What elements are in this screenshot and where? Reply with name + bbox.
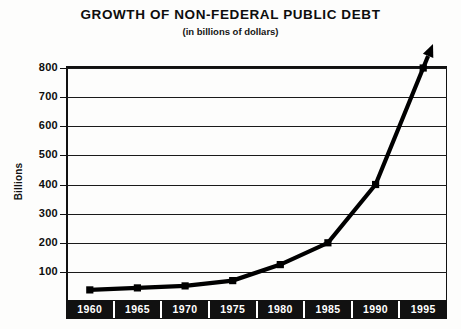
y-tick-label: 400 bbox=[18, 178, 58, 190]
x-axis-separator bbox=[398, 301, 400, 318]
y-tick-mark bbox=[60, 68, 67, 69]
x-axis-separator bbox=[256, 301, 258, 318]
x-tick-label: 1960 bbox=[67, 303, 113, 315]
y-tick-mark bbox=[60, 243, 67, 244]
y-tick-mark bbox=[60, 214, 67, 215]
x-axis-separator bbox=[160, 301, 162, 318]
y-tick-label: 800 bbox=[18, 61, 58, 73]
x-axis-separator bbox=[208, 301, 210, 318]
y-tick-label: 500 bbox=[18, 148, 58, 160]
plot-area bbox=[66, 66, 447, 301]
y-tick-label: 200 bbox=[18, 236, 58, 248]
gridline bbox=[66, 126, 447, 127]
x-tick-label: 1975 bbox=[210, 303, 256, 315]
chart-subtitle: (in billions of dollars) bbox=[0, 26, 461, 37]
x-axis-separator bbox=[113, 301, 115, 318]
y-tick-mark bbox=[60, 97, 67, 98]
gridline bbox=[66, 243, 447, 244]
gridline bbox=[66, 68, 447, 69]
gridline bbox=[66, 185, 447, 186]
x-axis-band: 19601965197019751980198519901995 bbox=[66, 300, 447, 319]
growth-arrow-icon bbox=[423, 44, 433, 58]
y-tick-mark bbox=[60, 155, 67, 156]
y-tick-mark bbox=[60, 185, 67, 186]
y-tick-label: 700 bbox=[18, 90, 58, 102]
plot-frame-right bbox=[446, 66, 447, 301]
y-tick-mark bbox=[60, 272, 67, 273]
gridline bbox=[66, 214, 447, 215]
y-tick-label: 600 bbox=[18, 119, 58, 131]
y-tick-label: 300 bbox=[18, 207, 58, 219]
y-tick-label: 100 bbox=[18, 265, 58, 277]
y-tick-mark bbox=[60, 126, 67, 127]
x-axis-separator bbox=[351, 301, 353, 318]
gridline bbox=[66, 97, 447, 98]
x-tick-label: 1980 bbox=[257, 303, 303, 315]
x-tick-label: 1985 bbox=[305, 303, 351, 315]
x-tick-label: 1990 bbox=[353, 303, 399, 315]
x-tick-label: 1970 bbox=[162, 303, 208, 315]
x-axis-separator bbox=[303, 301, 305, 318]
gridline bbox=[66, 272, 447, 273]
chart-title: GROWTH OF NON-FEDERAL PUBLIC DEBT bbox=[0, 7, 461, 22]
x-tick-label: 1965 bbox=[114, 303, 160, 315]
chart-container: GROWTH OF NON-FEDERAL PUBLIC DEBT (in bi… bbox=[0, 0, 461, 329]
plot-frame-left bbox=[66, 66, 68, 301]
gridline bbox=[66, 155, 447, 156]
x-tick-label: 1995 bbox=[400, 303, 446, 315]
